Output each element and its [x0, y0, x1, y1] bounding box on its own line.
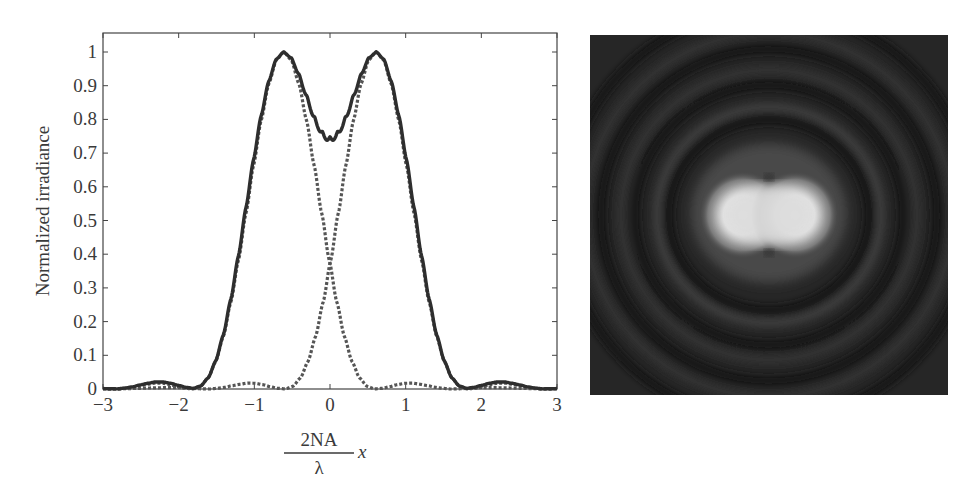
- x-tick-label: 0: [325, 394, 335, 415]
- y-tick-label: 0.7: [73, 142, 97, 163]
- y-tick-label: 0.3: [73, 277, 97, 298]
- plot-axes: −3−2−1012300.10.20.30.40.50.60.70.80.91: [73, 33, 562, 415]
- x-tick-label: 2: [477, 394, 487, 415]
- y-tick-label: 0.6: [73, 176, 97, 197]
- x-axis-title-variable: x: [357, 441, 367, 462]
- y-tick-label: 1: [88, 41, 98, 62]
- x-tick-label: 3: [552, 394, 562, 415]
- solid-curve-sum: [103, 52, 557, 389]
- irradiance-image: [590, 35, 948, 395]
- y-tick-label: 0.4: [73, 243, 97, 264]
- dotted-curve-left-psf: [103, 52, 557, 389]
- dotted-curve-right-psf: [103, 52, 557, 389]
- x-axis-title-denominator: λ: [314, 457, 324, 478]
- plot-frame: [103, 33, 557, 389]
- x-tick-label: −1: [244, 394, 264, 415]
- x-axis-title-numerator: 2NA: [301, 429, 338, 450]
- y-tick-label: 0.2: [73, 311, 97, 332]
- x-tick-label: 1: [401, 394, 411, 415]
- x-tick-label: −2: [169, 394, 189, 415]
- y-tick-label: 0: [88, 378, 98, 399]
- plot-curves: [103, 52, 557, 389]
- y-tick-label: 0.9: [73, 75, 97, 96]
- central-lobes: [691, 143, 847, 283]
- y-tick-label: 0.1: [73, 344, 97, 365]
- y-tick-label: 0.8: [73, 108, 97, 129]
- y-axis-title: Normalized irradiance: [32, 126, 53, 296]
- y-tick-label: 0.5: [73, 210, 97, 231]
